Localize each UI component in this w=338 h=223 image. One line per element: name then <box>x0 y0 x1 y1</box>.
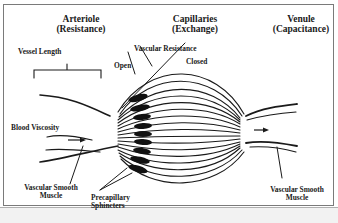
sphincter <box>134 131 152 137</box>
vsm-right-line2: Muscle <box>263 194 331 202</box>
precapillary-sphincters-label: Precapillary Sphincters <box>91 194 130 210</box>
vessel-length-label: Vessel Length <box>18 48 61 56</box>
section-header-arteriole: Arteriole (Resistance) <box>45 14 117 35</box>
venule-wall-lower-outer <box>246 142 297 146</box>
section-header-capillaries: Capillaries (Exchange) <box>156 14 234 35</box>
closed-label: Closed <box>186 58 207 66</box>
venule-title: Venule <box>265 14 337 24</box>
vsm-left-pointer-line <box>70 146 83 184</box>
blood-viscosity-label: Blood Viscosity <box>11 124 59 132</box>
vsm-left-line2: Muscle <box>18 192 84 200</box>
vascular-smooth-muscle-right-label: Vascular Smooth Muscle <box>263 186 331 202</box>
arteriole-wall-lower-outer <box>40 146 118 162</box>
venule-role: (Capacitance) <box>265 24 337 34</box>
section-header-venule: Venule (Capacitance) <box>265 14 337 35</box>
arteriole-wall-upper-inner <box>47 136 92 140</box>
precap-pointer-line-1 <box>100 168 127 190</box>
open-label: Open <box>114 62 131 70</box>
precap-pointer-line-2 <box>100 173 132 190</box>
sphincter <box>134 138 152 145</box>
vascular-smooth-muscle-left-label: Vascular Smooth Muscle <box>18 184 84 200</box>
sphincter <box>134 123 152 130</box>
vascular-resistance-label: Vascular Resistance <box>134 45 197 53</box>
sphincter <box>130 103 151 113</box>
capillaries-title: Capillaries <box>156 14 234 24</box>
vsm-right-pointer-line <box>277 147 282 178</box>
precap-line2: Sphincters <box>91 202 130 210</box>
capillaries-role: (Exchange) <box>156 24 234 34</box>
arteriole-title: Arteriole <box>45 14 117 24</box>
venule-wall-lower-inner <box>250 147 296 152</box>
arteriole-role: (Resistance) <box>45 24 117 34</box>
arteriole-wall-upper-outer <box>40 95 110 116</box>
vessel-length-bracket <box>34 64 101 78</box>
